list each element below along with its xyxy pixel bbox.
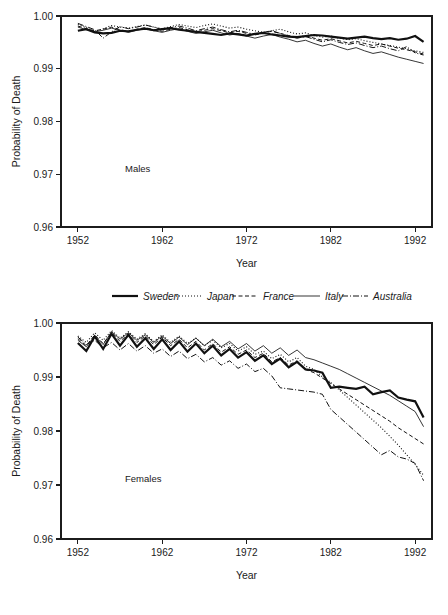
- plot-frame: [61, 323, 432, 539]
- series-line-australia: [78, 23, 424, 55]
- legend-label: France: [263, 291, 295, 302]
- x-tick-label: 1962: [151, 235, 174, 246]
- y-tick-label: 0.99: [34, 63, 54, 74]
- x-tick-label: 1992: [404, 235, 427, 246]
- legend-item-japan: Japan: [176, 291, 235, 302]
- chart-svg-females: 0.960.970.980.991.0019521962197219821992…: [0, 307, 448, 597]
- chart-panel-males: 0.960.970.980.991.0019521962197219821992…: [0, 0, 448, 285]
- y-tick-label: 0.96: [34, 534, 54, 545]
- panel-label: Females: [125, 473, 162, 484]
- figure-caption-fragment: [0, 603, 448, 615]
- series-group: [78, 23, 424, 63]
- series-line-sweden: [78, 334, 424, 418]
- y-tick-label: 0.99: [34, 372, 54, 383]
- series-group: [78, 331, 424, 481]
- y-axis: 0.960.970.980.991.00: [34, 11, 61, 233]
- legend-label: Italy: [325, 291, 344, 302]
- x-tick-label: 1982: [320, 235, 343, 246]
- x-axis-title: Year: [236, 569, 258, 581]
- panel-label: Males: [125, 163, 151, 174]
- y-axis: 0.960.970.980.991.00: [34, 318, 61, 545]
- y-tick-label: 0.96: [34, 222, 54, 233]
- x-tick-label: 1972: [235, 547, 258, 558]
- chart-panel-females: 0.960.970.980.991.0019521962197219821992…: [0, 307, 448, 597]
- plot-frame: [61, 16, 432, 227]
- y-tick-label: 0.97: [34, 169, 54, 180]
- y-tick-label: 1.00: [34, 318, 54, 329]
- figure-mortality-probability: 0.960.970.980.991.0019521962197219821992…: [0, 0, 448, 615]
- x-axis: 19521962197219821992: [67, 227, 427, 246]
- series-line-italy: [78, 332, 424, 427]
- chart-svg-males: 0.960.970.980.991.0019521962197219821992…: [0, 0, 448, 285]
- legend-item-australia: Australia: [342, 291, 412, 302]
- legend-label: Sweden: [143, 291, 180, 302]
- series-line-australia: [78, 337, 424, 481]
- y-tick-label: 0.98: [34, 116, 54, 127]
- x-axis: 19521962197219821992: [67, 539, 427, 558]
- y-tick-label: 0.98: [34, 426, 54, 437]
- legend-label: Japan: [206, 291, 235, 302]
- x-axis-title: Year: [236, 257, 258, 269]
- x-tick-label: 1952: [67, 235, 90, 246]
- legend-item-sweden: Sweden: [112, 291, 180, 302]
- legend-item-italy: Italy: [294, 291, 344, 302]
- series-line-sweden: [78, 28, 424, 42]
- chart-legend: SwedenJapanFranceItalyAustralia: [0, 285, 448, 307]
- series-line-japan: [78, 331, 424, 476]
- x-tick-label: 1982: [320, 547, 343, 558]
- y-tick-label: 0.97: [34, 480, 54, 491]
- x-tick-label: 1962: [151, 547, 174, 558]
- y-axis-title: Probability of Death: [10, 76, 22, 168]
- y-axis-title: Probability of Death: [10, 385, 22, 477]
- x-tick-label: 1952: [67, 547, 90, 558]
- x-tick-label: 1972: [235, 235, 258, 246]
- x-tick-label: 1992: [404, 547, 427, 558]
- legend-label: Australia: [372, 291, 412, 302]
- legend-svg: SwedenJapanFranceItalyAustralia: [0, 285, 448, 307]
- legend-item-france: France: [232, 291, 295, 302]
- series-line-france: [78, 333, 424, 444]
- y-tick-label: 1.00: [34, 11, 54, 22]
